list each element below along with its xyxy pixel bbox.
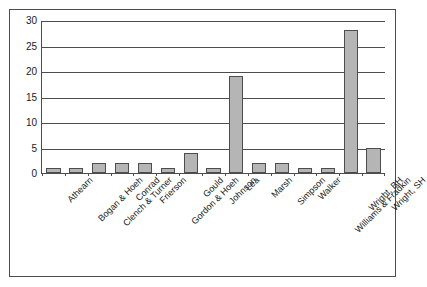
bar [252, 163, 266, 173]
gridline [42, 98, 385, 99]
y-tick-label: 15 [26, 93, 37, 103]
bar [69, 168, 83, 173]
bar [298, 168, 312, 173]
gridline [42, 21, 385, 22]
x-tick-label: Athearn [66, 175, 95, 204]
y-tick-label: 10 [26, 118, 37, 128]
y-axis-tick-labels: 051015202530 [19, 21, 37, 174]
bar [206, 168, 220, 173]
bar [46, 168, 60, 173]
bar [275, 163, 289, 173]
bar [229, 76, 243, 173]
y-tick-label: 0 [31, 169, 37, 179]
bar [344, 30, 358, 173]
x-tick-label: Marsh [270, 175, 295, 200]
bar [138, 163, 152, 173]
y-tick-label: 20 [26, 67, 37, 77]
y-tick-label: 30 [26, 16, 37, 26]
gridline [42, 47, 385, 48]
bar [92, 163, 106, 173]
bar [366, 148, 380, 174]
bar [321, 168, 335, 173]
bar [184, 153, 198, 173]
gridline [42, 123, 385, 124]
x-tick-mark [384, 173, 385, 176]
x-axis-tick-labels: AthearnBogan & HoehClench & TurnerConrad… [41, 175, 384, 265]
bar [161, 168, 175, 173]
gridline [42, 149, 385, 150]
gridline [42, 72, 385, 73]
y-tick-label: 25 [26, 42, 37, 52]
bar [115, 163, 129, 173]
y-tick-label: 5 [31, 144, 37, 154]
plot-area [41, 21, 384, 174]
